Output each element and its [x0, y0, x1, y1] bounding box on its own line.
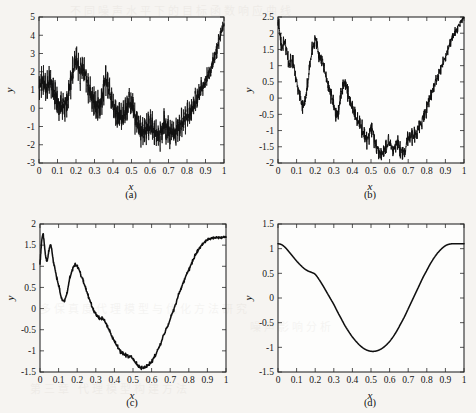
xtick-label: 0	[276, 166, 281, 176]
ytick-label: -1	[27, 122, 35, 132]
ytick-label: -0.5	[259, 318, 274, 328]
ytick-label: -1	[266, 126, 274, 136]
xtick-label: 1	[222, 166, 227, 176]
ytick-label: 1	[269, 61, 274, 71]
xtick-label: 0.4	[346, 166, 358, 176]
xtick-label: 1	[462, 166, 467, 176]
ytick-label: 5	[30, 12, 35, 22]
ytick-label: 3	[30, 49, 35, 59]
y-axis-label: y	[242, 87, 254, 93]
xtick-label: 0.6	[144, 166, 156, 176]
ytick-label: 1	[30, 85, 35, 95]
plot-c: 00.10.20.30.40.50.60.70.80.91-1.5-1-0.50…	[0, 206, 238, 413]
ytick-label: 0.5	[262, 77, 274, 87]
ytick-label: 1.5	[262, 45, 274, 55]
ytick-label: -1.5	[21, 367, 36, 377]
panel-caption-a: (a)	[125, 189, 137, 201]
ytick-label: 1	[31, 262, 36, 272]
xtick-label: 0.2	[71, 375, 83, 385]
ytick-label: -2	[27, 140, 35, 150]
xtick-label: 0.7	[163, 166, 175, 176]
ytick-label: 2	[269, 29, 274, 39]
ytick-label: 1.5	[24, 240, 36, 250]
ytick-label: -1	[266, 343, 274, 353]
xtick-label: 0.5	[365, 166, 377, 176]
xtick-label: 0.7	[164, 375, 176, 385]
ytick-label: -1	[28, 346, 36, 356]
xtick-label: 0.1	[291, 166, 303, 176]
xtick-label: 0.7	[402, 166, 414, 176]
xtick-label: 0.2	[70, 166, 82, 176]
panel-caption-d: (d)	[364, 397, 377, 409]
xtick-label: 0.6	[384, 375, 396, 385]
ytick-label: -1.5	[259, 142, 274, 152]
xtick-label: 0.9	[439, 166, 451, 176]
xtick-label: 0	[276, 375, 281, 385]
xtick-label: 0.8	[421, 375, 433, 385]
y-axis-label: y	[242, 295, 254, 301]
plot-b: 00.10.20.30.40.50.60.70.80.91-2-1.5-1-0.…	[238, 0, 476, 206]
xtick-label: 0.2	[309, 166, 321, 176]
xtick-label: 0.4	[107, 166, 119, 176]
xtick-label: 0.9	[200, 166, 212, 176]
ytick-label: 0	[31, 304, 36, 314]
xtick-label: 0.9	[201, 375, 213, 385]
plot-d: 00.10.20.30.40.50.60.70.80.91-1.5-1-0.50…	[238, 206, 476, 413]
ytick-label: -1.5	[259, 367, 274, 377]
xtick-label: 0.4	[346, 375, 358, 385]
ytick-label: 1.5	[262, 219, 274, 229]
ytick-label: 0.5	[24, 283, 36, 293]
xtick-label: 0.3	[328, 375, 340, 385]
figure-grid: 00.10.20.30.40.50.60.70.80.91-3-2-101234…	[0, 0, 476, 413]
ytick-label: 2	[30, 67, 35, 77]
xtick-label: 1	[224, 375, 229, 385]
ytick-label: -0.5	[21, 325, 36, 335]
xtick-label: 0.3	[90, 375, 102, 385]
panel-b: 00.10.20.30.40.50.60.70.80.91-2-1.5-1-0.…	[238, 0, 476, 206]
panel-caption-b: (b)	[364, 189, 377, 201]
xtick-label: 0	[38, 375, 43, 385]
xtick-label: 0	[37, 166, 42, 176]
xtick-label: 0.7	[402, 375, 414, 385]
y-axis-label: y	[4, 295, 16, 301]
xtick-label: 0.6	[384, 166, 396, 176]
panel-c: 00.10.20.30.40.50.60.70.80.91-1.5-1-0.50…	[0, 206, 238, 413]
xtick-label: 0.8	[183, 375, 195, 385]
xtick-label: 0.5	[365, 375, 377, 385]
xtick-label: 0.3	[328, 166, 340, 176]
panel-a: 00.10.20.30.40.50.60.70.80.91-3-2-101234…	[0, 0, 238, 206]
ytick-label: 0.5	[262, 269, 274, 279]
panel-caption-c: (c)	[126, 397, 138, 409]
ytick-label: -0.5	[259, 110, 274, 120]
xtick-label: 0.4	[108, 375, 120, 385]
y-axis-label: y	[3, 87, 15, 93]
ytick-label: 2	[31, 219, 36, 229]
xtick-label: 0.1	[53, 375, 65, 385]
xtick-label: 0.5	[127, 375, 139, 385]
xtick-label: 0.1	[291, 375, 303, 385]
ytick-label: -3	[27, 158, 35, 168]
ytick-label: -2	[266, 158, 274, 168]
xtick-label: 0.8	[421, 166, 433, 176]
ytick-label: 0	[269, 93, 274, 103]
panel-d: 00.10.20.30.40.50.60.70.80.91-1.5-1-0.50…	[238, 206, 476, 413]
ytick-label: 0	[269, 293, 274, 303]
xtick-label: 0.8	[181, 166, 193, 176]
ytick-label: 0	[30, 104, 35, 114]
xtick-label: 0.6	[146, 375, 158, 385]
xtick-label: 0.3	[89, 166, 101, 176]
xtick-label: 0.9	[439, 375, 451, 385]
xtick-label: 1	[462, 375, 467, 385]
ytick-label: 2.5	[262, 12, 274, 22]
xtick-label: 0.2	[309, 375, 321, 385]
ytick-label: 1	[269, 244, 274, 254]
xtick-label: 0.5	[126, 166, 138, 176]
xtick-label: 0.1	[52, 166, 64, 176]
plot-a: 00.10.20.30.40.50.60.70.80.91-3-2-101234…	[0, 0, 238, 206]
ytick-label: 4	[30, 31, 35, 41]
